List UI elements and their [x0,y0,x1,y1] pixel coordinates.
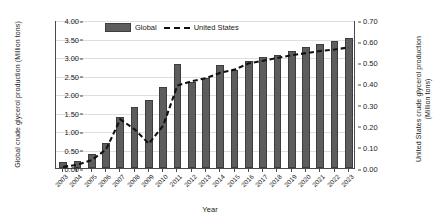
x-axis-tick-mark [176,169,177,172]
x-axis-tick-mark [319,169,320,172]
y-axis-right-tick-label: 0.00 [363,165,403,174]
x-axis-tick-mark [334,169,335,172]
y-axis-right-tick-label: 0.70 [363,17,403,26]
plot-area [55,21,355,169]
x-axis-tick-mark [234,169,235,172]
x-axis-title: Year [150,205,270,214]
x-axis-tick-mark [291,169,292,172]
x-axis-tick-mark [105,169,106,172]
y-axis-right-title: United States crude glycerol production … [414,24,432,174]
y-axis-left-title: Global crude glycerol production (Millio… [13,20,22,170]
y-axis-left-tick-label: 3.50 [39,35,79,44]
x-axis-tick-mark [305,169,306,172]
x-axis-tick-mark [119,169,120,172]
x-axis-tick-mark [62,169,63,172]
y-axis-left-tick-label: 4.00 [39,17,79,26]
x-axis-tick-mark [162,169,163,172]
y-axis-right-tick-label: 0.30 [363,101,403,110]
y-axis-right-tick-label: 0.60 [363,38,403,47]
y-axis-left-tick-label: 1.50 [39,109,79,118]
y-axis-right-tick-label: 0.10 [363,143,403,152]
x-axis-tick-mark [262,169,263,172]
x-axis-tick-mark [205,169,206,172]
y-axis-left-tick-label: 0.50 [39,146,79,155]
y-axis-right-tick-label: 0.20 [363,122,403,131]
x-axis-tick-mark [134,169,135,172]
y-axis-left-tick-label: 3.00 [39,54,79,63]
x-axis-tick-mark [191,169,192,172]
x-axis-tick-mark [276,169,277,172]
y-axis-right-tick-label: 0.40 [363,80,403,89]
y-axis-right-tick-label: 0.50 [363,59,403,68]
x-axis-tick-mark [148,169,149,172]
x-axis-tick-mark [248,169,249,172]
line-series-united-states [56,21,356,169]
y-axis-left-tick-label: 2.00 [39,91,79,100]
x-axis-tick-mark [76,169,77,172]
x-axis-tick-mark [91,169,92,172]
x-axis-tick-mark [348,169,349,172]
x-axis-tick-mark [219,169,220,172]
y-axis-left-tick-label: 0.00 [39,165,79,174]
y-axis-left-tick-label: 1.00 [39,128,79,137]
y-axis-left-tick-label: 2.50 [39,72,79,81]
glycerol-production-chart: Global crude glycerol production (Millio… [0,0,438,220]
